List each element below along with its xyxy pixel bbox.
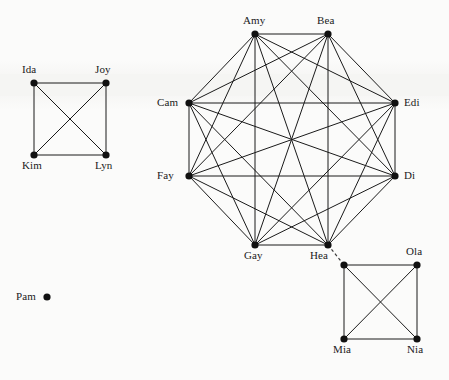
node-label-di: Di — [404, 170, 415, 181]
graph-node-fay[interactable] — [185, 172, 192, 179]
graph-node-ida[interactable] — [30, 79, 37, 86]
graph-edge — [328, 103, 395, 245]
graph-edge — [189, 103, 328, 245]
graph-node-edi[interactable] — [391, 99, 398, 106]
node-label-cam: Cam — [157, 97, 178, 108]
node-label-joy: Joy — [95, 64, 111, 75]
node-label-lyn: Lyn — [95, 160, 112, 171]
graph-node-hea[interactable] — [324, 241, 331, 248]
node-label-bea: Bea — [317, 15, 334, 26]
graph-svg — [0, 0, 449, 380]
graph-edge — [255, 34, 395, 103]
graph-edge — [328, 245, 344, 265]
graph-node-kim[interactable] — [30, 151, 37, 158]
graph-edge — [189, 34, 328, 176]
edges-layer — [34, 34, 417, 339]
graph-edge — [255, 34, 395, 176]
graph-node-gay[interactable] — [251, 241, 258, 248]
graph-edge — [255, 176, 395, 245]
graph-edge — [328, 34, 395, 103]
graph-node-unlabeled-ne[interactable] — [340, 261, 347, 268]
node-label-nia: Nia — [407, 344, 423, 355]
node-label-edi: Edi — [404, 97, 420, 108]
graph-edge — [189, 34, 255, 103]
graph-node-nia[interactable] — [413, 335, 420, 342]
graph-node-joy[interactable] — [102, 79, 109, 86]
graph-node-di[interactable] — [391, 172, 398, 179]
node-label-ola: Ola — [406, 246, 422, 257]
graph-edge — [189, 176, 255, 245]
graph-node-mia[interactable] — [340, 335, 347, 342]
graph-edge — [328, 176, 395, 245]
node-label-ida: Ida — [22, 64, 36, 75]
node-label-gay: Gay — [244, 250, 263, 261]
graph-node-lyn[interactable] — [102, 151, 109, 158]
graph-node-pam[interactable] — [43, 293, 50, 300]
node-label-amy: Amy — [243, 15, 265, 26]
node-label-fay: Fay — [157, 170, 174, 181]
graph-node-cam[interactable] — [185, 99, 192, 106]
graph-diagram-canvas: IdaJoyKimLynAmyBeaEdiDiHeaGayFayCamOlaMi… — [0, 0, 449, 380]
node-label-hea: Hea — [310, 250, 328, 261]
graph-node-bea[interactable] — [324, 30, 331, 37]
graph-edge — [328, 34, 395, 176]
node-label-pam: Pam — [16, 291, 36, 302]
nodes-layer — [30, 30, 420, 342]
graph-edge — [189, 103, 255, 245]
node-label-kim: Kim — [22, 160, 42, 171]
graph-node-ola[interactable] — [413, 261, 420, 268]
node-label-mia: Mia — [333, 344, 351, 355]
graph-edge — [255, 103, 395, 245]
graph-edge — [189, 34, 255, 176]
graph-node-amy[interactable] — [251, 30, 258, 37]
